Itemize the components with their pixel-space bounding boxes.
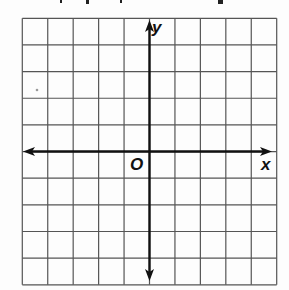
axes [23,20,272,281]
cropped-heading-fragments [60,0,223,4]
y-axis-label: y [151,18,163,37]
scan-speck [36,89,39,92]
origin-label: O [130,155,143,174]
x-axis-label: x [260,155,272,174]
coordinate-plane: y x O [0,0,289,290]
